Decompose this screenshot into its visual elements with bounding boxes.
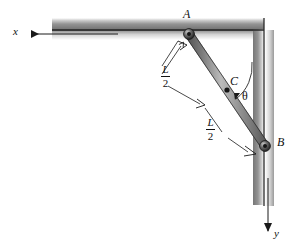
angle-label-theta: θ	[242, 89, 248, 104]
horizontal-wall	[52, 18, 264, 40]
dimension-upper-denominator: 2	[161, 78, 170, 89]
dimension-upper-numerator: L	[161, 64, 170, 75]
vertical-wall	[253, 18, 274, 206]
point-label-A: A	[183, 8, 190, 20]
point-label-C: C	[230, 75, 238, 87]
dimension-lower-denominator: 2	[206, 131, 215, 142]
dimension-label-upper-half: L 2	[161, 64, 170, 89]
midpoint-marker-C	[224, 87, 229, 92]
pin-support-B	[260, 141, 271, 152]
figure-canvas: x y A C B L 2 L 2 θ	[0, 0, 299, 250]
dimension-lower-numerator: L	[206, 117, 215, 128]
point-label-B: B	[277, 136, 284, 148]
dimension-label-lower-half: L 2	[206, 117, 215, 142]
pin-support-A	[184, 29, 195, 40]
axis-label-y: y	[274, 228, 279, 239]
axis-label-x: x	[13, 26, 18, 37]
diagram-svg	[0, 0, 299, 250]
